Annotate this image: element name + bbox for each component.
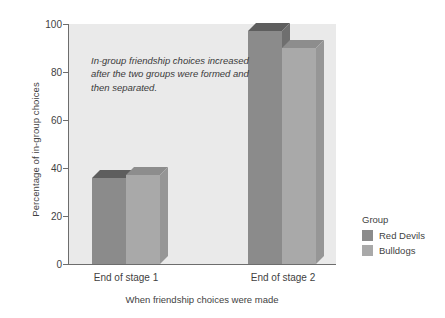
legend-item-bulldogs: Bulldogs xyxy=(362,245,444,256)
x-axis-title: When friendship choices were made xyxy=(68,294,336,305)
legend-label-bulldogs: Bulldogs xyxy=(379,245,415,256)
y-tick-label-20: 20 xyxy=(36,211,62,222)
y-axis-tick-labels: 100 80 60 40 20 0 xyxy=(30,0,62,318)
legend-item-red-devils: Red Devils xyxy=(362,230,444,241)
y-tick-label-40: 40 xyxy=(36,163,62,174)
y-tick-label-0: 0 xyxy=(36,259,62,270)
bar-front-face xyxy=(126,175,160,264)
bar-front-face xyxy=(248,31,282,264)
bar-bulldogs-stage-1 xyxy=(126,175,160,264)
x-tick-label-stage-2: End of stage 2 xyxy=(251,272,316,283)
bar-front-face xyxy=(92,178,126,264)
chart-annotation: In-group friendship choices increased af… xyxy=(91,54,251,94)
bar-chart: Percentage of in-group choices 100 80 60… xyxy=(0,0,445,318)
y-tick-label-100: 100 xyxy=(36,19,62,30)
bar-side-face xyxy=(316,40,324,264)
bar-front-face xyxy=(282,48,316,264)
y-tick-label-80: 80 xyxy=(36,67,62,78)
y-tick-label-60: 60 xyxy=(36,115,62,126)
legend-swatch-icon xyxy=(362,230,373,241)
legend-swatch-icon xyxy=(362,245,373,256)
bar-side-face xyxy=(160,167,168,264)
legend-label-red-devils: Red Devils xyxy=(379,230,425,241)
bar-red-devils-stage-2 xyxy=(248,31,282,264)
bar-red-devils-stage-1 xyxy=(92,178,126,264)
x-axis-line xyxy=(68,264,336,265)
bar-bulldogs-stage-2 xyxy=(282,48,316,264)
legend-title: Group xyxy=(362,214,444,225)
legend: Group Red Devils Bulldogs xyxy=(362,214,444,260)
x-tick-label-stage-1: End of stage 1 xyxy=(94,272,159,283)
